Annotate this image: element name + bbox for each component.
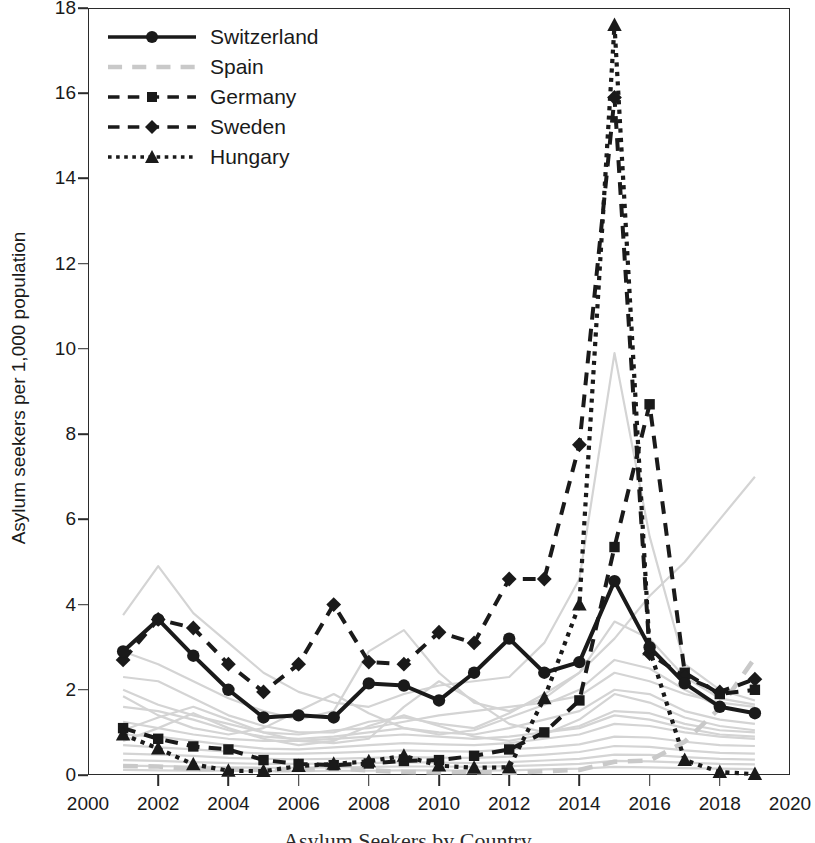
y-tick-label: 2 [65, 679, 76, 701]
y-tick-label: 0 [65, 764, 76, 786]
data-point-marker [433, 694, 445, 706]
data-point-marker [503, 632, 515, 644]
background-series-line [123, 353, 755, 707]
y-tick-mark [78, 7, 88, 9]
data-point-marker [502, 572, 517, 587]
legend-label: Spain [210, 55, 264, 79]
figure-caption: Asylum Seekers by Country [0, 826, 815, 843]
y-tick-mark [78, 178, 88, 180]
background-series-line [123, 477, 755, 720]
data-point-marker [292, 709, 304, 721]
legend-swatch-sweden [106, 116, 198, 138]
data-point-marker [749, 707, 761, 719]
x-tick-label: 2000 [67, 793, 109, 815]
legend-label: Switzerland [210, 25, 319, 49]
data-point-marker [539, 727, 549, 737]
x-tick-label: 2016 [628, 793, 670, 815]
data-point-marker [152, 613, 164, 625]
legend-swatch-germany [106, 86, 198, 108]
legend: SwitzerlandSpainGermanySwedenHungary [106, 22, 319, 172]
data-point-marker [187, 649, 199, 661]
y-tick-mark [78, 774, 88, 776]
data-point-marker [607, 17, 621, 31]
data-point-marker [677, 752, 691, 766]
legend-item-spain[interactable]: Spain [106, 52, 319, 82]
data-point-marker [608, 575, 620, 587]
data-point-marker [363, 677, 375, 689]
x-tick-label: 2008 [348, 793, 390, 815]
data-point-marker [223, 744, 233, 754]
x-tick-label: 2014 [558, 793, 600, 815]
y-tick-label: 12 [55, 253, 76, 275]
legend-label: Sweden [210, 115, 286, 139]
x-tick-mark [157, 775, 159, 786]
data-point-marker [714, 701, 726, 713]
legend-label: Hungary [210, 145, 289, 169]
legend-item-sweden[interactable]: Sweden [106, 112, 319, 142]
y-tick-label: 6 [65, 508, 76, 530]
y-tick-mark [78, 604, 88, 606]
legend-item-hungary[interactable]: Hungary [106, 142, 319, 172]
y-tick-mark [78, 689, 88, 691]
figure: Asylum seekers per 1,000 population 0246… [0, 0, 815, 843]
x-tick-mark [438, 775, 440, 786]
data-point-marker [504, 744, 514, 754]
x-tick-mark [579, 775, 581, 786]
x-axis-ticks: 2000200220042006200820102012201420162018… [88, 775, 790, 825]
data-point-marker [537, 572, 552, 587]
x-tick-label: 2012 [488, 793, 530, 815]
y-axis-label: Asylum seekers per 1,000 population [2, 0, 36, 775]
x-tick-label: 2006 [277, 793, 319, 815]
y-tick-label: 8 [65, 423, 76, 445]
data-point-marker [467, 636, 482, 651]
y-tick-label: 10 [55, 338, 76, 360]
legend-item-germany[interactable]: Germany [106, 82, 319, 112]
data-point-marker [748, 672, 763, 687]
data-point-marker [679, 677, 691, 689]
x-tick-mark [508, 775, 510, 786]
legend-label: Germany [210, 85, 296, 109]
data-point-marker [186, 757, 200, 771]
series-line-sweden [123, 97, 755, 691]
data-point-marker [573, 656, 585, 668]
legend-marker [145, 120, 159, 134]
y-tick-label: 18 [55, 0, 76, 19]
x-tick-label: 2018 [699, 793, 741, 815]
y-tick-label: 16 [55, 82, 76, 104]
x-tick-label: 2004 [207, 793, 249, 815]
y-tick-label: 4 [65, 594, 76, 616]
legend-swatch-spain [106, 56, 198, 78]
data-point-marker [468, 667, 480, 679]
legend-marker [146, 31, 158, 43]
data-point-marker [222, 684, 234, 696]
legend-swatch-switzerland [106, 26, 198, 48]
data-point-marker [257, 711, 269, 723]
y-tick-mark [78, 348, 88, 350]
y-tick-mark [78, 263, 88, 265]
data-point-marker [538, 667, 550, 679]
y-tick-label: 14 [55, 167, 76, 189]
x-tick-mark [298, 775, 300, 786]
data-point-marker [572, 437, 587, 452]
x-tick-mark [368, 775, 370, 786]
y-axis-label-text: Asylum seekers per 1,000 population [8, 231, 30, 544]
y-tick-mark [78, 433, 88, 435]
x-tick-mark [719, 775, 721, 786]
data-point-marker [609, 542, 619, 552]
data-point-marker [469, 751, 479, 761]
data-point-marker [572, 597, 586, 611]
y-tick-mark [78, 92, 88, 94]
y-tick-mark [78, 519, 88, 521]
x-tick-label: 2002 [137, 793, 179, 815]
y-axis-ticks: 024681012141618 [34, 0, 88, 843]
legend-marker [147, 92, 157, 102]
data-point-marker [117, 645, 129, 657]
legend-item-switzerland[interactable]: Switzerland [106, 22, 319, 52]
x-tick-label: 2010 [418, 793, 460, 815]
x-tick-label: 2020 [769, 793, 811, 815]
data-point-marker [328, 711, 340, 723]
data-point-marker [188, 741, 198, 751]
x-tick-mark [649, 775, 651, 786]
data-point-marker [398, 679, 410, 691]
data-point-marker [644, 399, 654, 409]
